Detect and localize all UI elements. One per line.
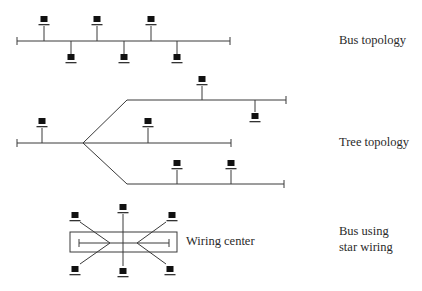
computer-icon (70, 266, 81, 275)
wiring-center-label: Wiring center (186, 234, 255, 249)
computer-icon (167, 212, 178, 221)
computer-icon (172, 54, 183, 63)
tree-topology (17, 76, 286, 188)
computer-icon (165, 266, 176, 275)
computer-icon (70, 212, 81, 221)
computer-icon (119, 54, 130, 63)
computer-icon (143, 118, 154, 127)
computer-icon (226, 160, 237, 169)
computer-icon (118, 268, 129, 277)
computer-icon (37, 118, 48, 127)
bus-topology (17, 16, 230, 63)
bus-topology-label: Bus topology (339, 33, 406, 48)
star-wiring-label-line2: star wiring (339, 240, 393, 255)
computer-icon (250, 113, 261, 122)
star-wired-bus (70, 204, 178, 277)
computer-icon (118, 204, 129, 213)
computer-icon (172, 160, 183, 169)
tree-branch-lower (83, 143, 284, 184)
computer-icon (146, 16, 157, 25)
tree-topology-label: Tree topology (339, 135, 409, 150)
computer-icon (39, 16, 50, 25)
computer-icon (66, 54, 77, 63)
computer-icon (197, 76, 208, 85)
star-wiring-label-line1: Bus using (339, 224, 389, 239)
computer-icon (92, 16, 103, 25)
